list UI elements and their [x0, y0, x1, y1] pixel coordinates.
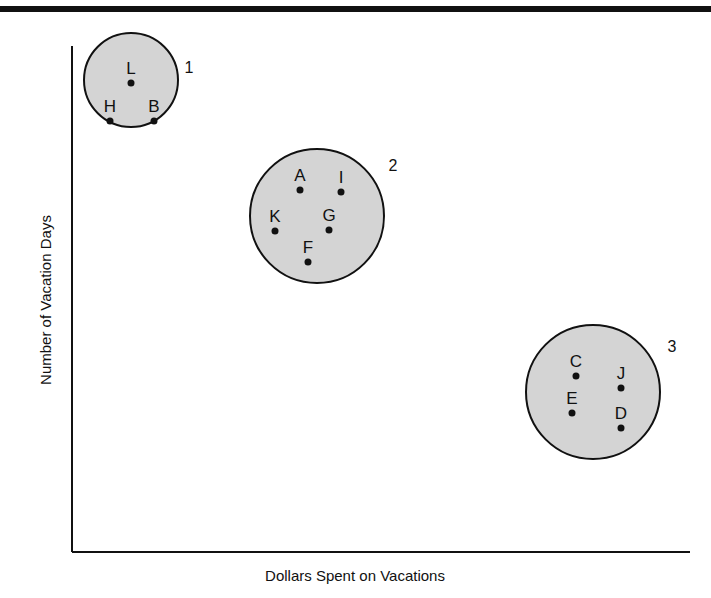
point-label: F [303, 238, 313, 257]
data-point-e [569, 410, 576, 417]
data-point-k [272, 228, 279, 235]
data-point-f [305, 259, 312, 266]
point-label: C [570, 352, 582, 371]
cluster-diagram: 1LHB2AIKGF3CJED Dollars Spent on Vacatio… [0, 0, 711, 598]
data-point-c [573, 373, 580, 380]
point-label: B [148, 97, 159, 116]
x-axis-label: Dollars Spent on Vacations [265, 567, 445, 584]
point-label: L [126, 59, 135, 78]
point-label: I [339, 168, 344, 187]
cluster-circle [526, 325, 660, 459]
data-point-l [128, 80, 135, 87]
data-point-g [326, 227, 333, 234]
point-label: K [269, 207, 281, 226]
data-point-b [151, 118, 158, 125]
cluster-2: 2AIKGF [250, 149, 398, 283]
clusters-group: 1LHB2AIKGF3CJED [84, 33, 677, 459]
data-point-j [618, 385, 625, 392]
point-label: H [104, 97, 116, 116]
point-label: A [294, 166, 306, 185]
cluster-number-label: 2 [389, 157, 398, 174]
cluster-number-label: 1 [185, 59, 194, 76]
point-label: G [322, 206, 335, 225]
data-point-d [618, 425, 625, 432]
point-label: J [617, 364, 626, 383]
data-point-i [338, 189, 345, 196]
cluster-number-label: 3 [668, 338, 677, 355]
y-axis-label: Number of Vacation Days [37, 215, 54, 385]
point-label: E [566, 389, 577, 408]
data-point-a [297, 187, 304, 194]
cluster-3: 3CJED [526, 325, 677, 459]
data-point-h [107, 118, 114, 125]
cluster-1: 1LHB [84, 33, 194, 127]
point-label: D [615, 404, 627, 423]
